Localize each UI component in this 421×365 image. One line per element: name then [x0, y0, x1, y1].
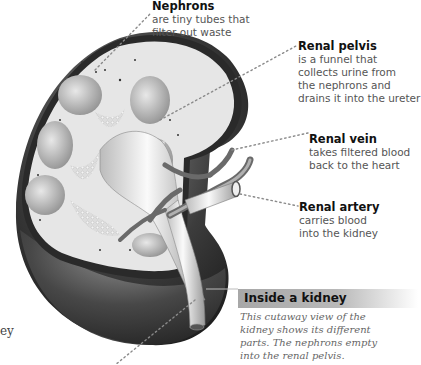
label-renal-vein: Renal vein takes filtered blood back to … — [309, 132, 410, 172]
label-title: Nephrons — [152, 0, 250, 13]
caption-box: Inside a kidney This cutaway view of the… — [238, 289, 418, 362]
label-nephrons: Nephrons are tiny tubes that filter out … — [152, 0, 250, 39]
leader-renal-artery — [240, 194, 298, 206]
label-title: Renal vein — [309, 132, 410, 146]
caption-body: This cutaway view of the kidney shows it… — [238, 310, 418, 362]
label-renal-artery: Renal artery carries blood into the kidn… — [299, 200, 379, 240]
label-renal-pelvis: Renal pelvis is a funnel that collects u… — [298, 39, 420, 105]
label-description: is a funnel that collects urine from the… — [298, 53, 420, 105]
caption-title: Inside a kidney — [238, 289, 418, 308]
ureter-opening — [190, 324, 204, 330]
label-description: are tiny tubes that filter out waste — [152, 13, 250, 39]
label-description: takes filtered blood back to the heart — [309, 146, 410, 172]
label-description: carries blood into the kidney — [299, 214, 379, 240]
cropped-text-fragment: ey — [0, 324, 14, 338]
leader-renal-vein — [232, 133, 308, 150]
label-title: Renal pelvis — [298, 39, 420, 53]
label-title: Renal artery — [299, 200, 379, 214]
